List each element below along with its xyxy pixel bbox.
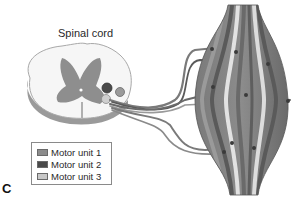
legend-label: Motor unit 2 <box>51 159 101 170</box>
legend-item-motor-unit-2: Motor unit 2 <box>37 159 101 169</box>
legend-label: Motor unit 3 <box>51 171 101 182</box>
motor-neuron-3-body <box>102 95 111 104</box>
muscle <box>195 5 288 195</box>
central-canal <box>79 88 82 91</box>
legend: Motor unit 1 Motor unit 2 Motor unit 3 <box>31 142 112 185</box>
legend-item-motor-unit-3: Motor unit 3 <box>37 171 101 181</box>
legend-item-motor-unit-1: Motor unit 1 <box>37 147 101 157</box>
motor-neuron-2-body <box>102 83 112 93</box>
legend-label: Motor unit 1 <box>51 147 101 158</box>
motor-unit-2-swatch <box>37 161 48 168</box>
motor-unit-1-swatch <box>37 149 48 156</box>
motor-unit-3-swatch <box>37 173 48 180</box>
spinal-cord-label: Spinal cord <box>58 27 113 39</box>
motor-neuron-1-body <box>116 88 125 97</box>
panel-letter: C <box>2 181 11 196</box>
